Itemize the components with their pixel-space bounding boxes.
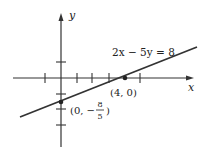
x-axis-label: x: [188, 81, 195, 94]
x-intercept-label: (4, 0): [110, 87, 137, 98]
svg-text:8: 8: [97, 100, 102, 109]
y-intercept-label: (0, − 8 5 ): [70, 100, 110, 121]
y-axis-arrow-icon: [59, 13, 64, 21]
svg-text:(0, −: (0, −: [70, 105, 95, 116]
point-x-intercept: [123, 76, 128, 81]
graph-canvas: y x 2x − 5y = 8 (4, 0) (0, − 8 5 ): [0, 0, 210, 158]
svg-text:5: 5: [97, 112, 102, 121]
x-axis-arrow-icon: [186, 76, 194, 81]
point-y-intercept: [59, 100, 64, 105]
equation-label: 2x − 5y = 8: [112, 46, 175, 58]
svg-text:): ): [106, 105, 110, 116]
y-axis-label: y: [68, 9, 76, 22]
